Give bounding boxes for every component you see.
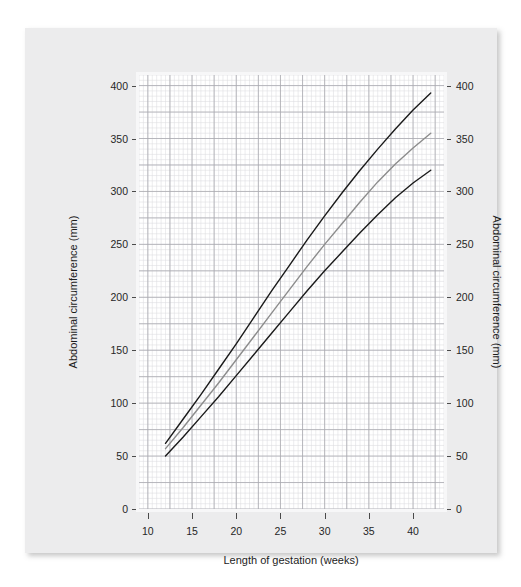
- chart-panel: Abdominal circumference (mm) Abdominal c…: [25, 28, 497, 553]
- x-tick-mark: [148, 513, 149, 519]
- y-tick-label-right: 100: [456, 398, 474, 409]
- y-tick-label-right: 50: [456, 451, 468, 462]
- x-tick-mark: [369, 513, 370, 519]
- centile-curves: [139, 75, 444, 509]
- y-tick-label-left: 100: [110, 398, 128, 409]
- plot-frame: [136, 72, 447, 512]
- figure-root: Abdominal circumference (mm) Abdominal c…: [0, 0, 521, 587]
- x-tick-label: 35: [363, 526, 375, 537]
- y-tick-label-left: 200: [110, 292, 128, 303]
- x-tick-label: 10: [142, 526, 154, 537]
- y-tick-label-right: 150: [456, 345, 474, 356]
- x-tick-mark: [280, 513, 281, 519]
- y-tick-label-right: 0: [456, 504, 462, 515]
- y-tick-label-left: 400: [110, 80, 128, 91]
- curve-series-1: [166, 133, 431, 448]
- y-tick-label-right: 350: [456, 133, 474, 144]
- x-tick-mark: [325, 513, 326, 519]
- y-tick-label-right: 200: [456, 292, 474, 303]
- plot-area: [139, 75, 444, 509]
- curve-series-0: [166, 93, 431, 443]
- curve-series-2: [166, 170, 431, 456]
- x-tick-label: 20: [230, 526, 242, 537]
- y-tick-label-left: 150: [110, 345, 128, 356]
- x-tick-label: 15: [186, 526, 198, 537]
- y-tick-label-left: 50: [116, 451, 128, 462]
- x-tick-label: 30: [319, 526, 331, 537]
- x-tick-label: 40: [407, 526, 419, 537]
- y-tick-label-right: 250: [456, 239, 474, 250]
- y-tick-label-right: 400: [456, 80, 474, 91]
- y-tick-label-left: 300: [110, 186, 128, 197]
- y-tick-label-left: 0: [122, 504, 128, 515]
- x-axis-title: Length of gestation (weeks): [223, 555, 358, 566]
- y-tick-label-left: 350: [110, 133, 128, 144]
- x-tick-mark: [192, 513, 193, 519]
- x-tick-mark: [236, 513, 237, 519]
- x-tick-mark: [413, 513, 414, 519]
- y-axis-title-right: Abdominal circumference (mm): [491, 216, 502, 369]
- x-tick-label: 25: [275, 526, 287, 537]
- y-axis-title-left: Abdominal circumference (mm): [68, 216, 79, 369]
- y-tick-label-right: 300: [456, 186, 474, 197]
- y-tick-label-left: 250: [110, 239, 128, 250]
